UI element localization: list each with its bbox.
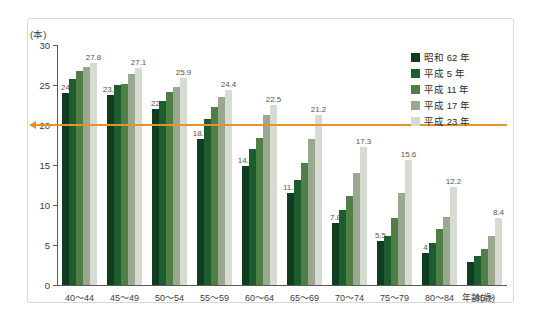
legend-item[interactable]: 昭和 62 年 [411,50,470,64]
y-tick-mark [53,285,57,286]
bar[interactable] [114,85,121,285]
bar[interactable] [436,229,443,285]
bar-group: 14.922.560～64 [237,45,282,285]
y-tick-label: 0 [45,280,50,291]
x-tick-label: 70～74 [335,291,364,304]
x-tick-label: 65～69 [290,291,319,304]
bar-group: 18.324.455～59 [192,45,237,285]
bar[interactable]: 8.4 [495,218,502,285]
bar[interactable] [263,115,270,285]
bar[interactable] [301,163,308,285]
y-tick-label: 10 [39,200,50,211]
bar[interactable] [443,217,450,285]
bar[interactable]: 24 [62,93,69,285]
bar[interactable]: 15.6 [405,160,412,285]
chart-legend: 昭和 62 年平成 5 年平成 11 年平成 17 年平成 23 年 [411,50,470,128]
bar[interactable] [159,101,166,285]
bar[interactable]: 4 [422,253,429,285]
bar-group-bars: 18.324.4 [192,45,237,285]
bar[interactable] [481,249,488,285]
bar[interactable]: 11.5 [287,193,294,285]
bar[interactable]: 25.9 [180,78,187,285]
bar[interactable] [339,210,346,285]
bar[interactable]: 22 [152,109,159,285]
bar-group-bars: 2427.8 [57,45,102,285]
bar[interactable]: 27.8 [90,63,97,285]
legend-item[interactable]: 平成 5 年 [411,66,470,80]
y-tick-label: 30 [39,40,50,51]
bar-value-label: 12.2 [446,178,462,186]
bar[interactable] [76,71,83,285]
bar[interactable] [384,236,391,285]
legend-label: 平成 11 年 [424,82,469,96]
bar-value-label: 24.4 [221,81,237,89]
legend-swatch-icon [411,117,420,126]
x-tick-label: 75～79 [380,291,409,304]
bar[interactable] [429,243,436,285]
bar[interactable]: 14.9 [242,166,249,285]
bar-value-label: 27.1 [131,59,147,67]
legend-item[interactable]: 平成 11 年 [411,82,470,96]
bar[interactable] [391,218,398,285]
bar[interactable] [256,138,263,285]
bar[interactable] [488,236,495,285]
bar-group: 7.817.370～74 [327,45,372,285]
bar[interactable] [173,87,180,285]
bar-group: 11.521.265～69 [282,45,327,285]
bar[interactable] [204,119,211,285]
bar[interactable] [128,74,135,285]
legend-label: 昭和 62 年 [424,50,470,64]
bar[interactable] [474,256,481,285]
legend-swatch-icon [411,101,420,110]
legend-swatch-icon [411,85,420,94]
bar[interactable]: 12.2 [450,187,457,285]
bar-value-label: 25.9 [176,69,192,77]
bar[interactable] [211,107,218,285]
bar[interactable]: 21.2 [315,115,322,285]
bar[interactable]: 5.5 [377,241,384,285]
x-tick-label: 45～49 [110,291,139,304]
bar-value-label: 21.2 [311,106,327,114]
x-tick-label: 50～54 [155,291,184,304]
bar-group-bars: 7.817.3 [327,45,372,285]
bar[interactable]: 7.8 [332,223,339,285]
bar[interactable]: 17.3 [360,147,367,285]
bar[interactable]: 22.5 [270,105,277,285]
bar[interactable] [467,262,474,285]
y-tick-label: 15 [39,160,50,171]
legend-label: 平成 23 年 [424,114,470,128]
bar[interactable] [249,149,256,285]
bar[interactable]: 18.3 [197,139,204,285]
bar-value-label: 27.8 [86,54,102,62]
bar-value-label: 17.3 [356,138,372,146]
bar[interactable]: 27.1 [135,68,142,285]
legend-item[interactable]: 平成 17 年 [411,98,470,112]
legend-label: 平成 17 年 [424,98,470,112]
bar-group-bars: 23.827.1 [102,45,147,285]
bar-group: 23.827.145～49 [102,45,147,285]
bar[interactable] [294,180,301,285]
x-axis-line [57,285,507,286]
x-tick-label: 60～64 [245,291,274,304]
x-tick-label: 55～59 [200,291,229,304]
bar[interactable] [166,92,173,285]
bar-group-bars: 11.521.2 [282,45,327,285]
x-tick-label: 40～44 [65,291,94,304]
bar[interactable]: 24.4 [225,90,232,285]
legend-item[interactable]: 平成 23 年 [411,114,470,128]
bar[interactable] [121,84,128,285]
bar[interactable] [69,79,76,285]
bar-value-label: 15.6 [401,151,417,159]
bar-value-label: 4 [423,244,427,252]
chart-figure: (本) 051015202530 2427.840～4423.827.145～4… [0,0,535,327]
legend-swatch-icon [411,53,420,62]
bar[interactable] [346,196,353,285]
bar-value-label: 8.4 [493,209,504,217]
bar[interactable] [308,139,315,285]
bar[interactable] [398,193,405,285]
legend-label: 平成 5 年 [424,66,465,80]
x-tick-label: 80～84 [425,291,454,304]
bar[interactable] [353,173,360,285]
bar[interactable] [83,67,90,285]
y-tick-label: 5 [45,240,50,251]
